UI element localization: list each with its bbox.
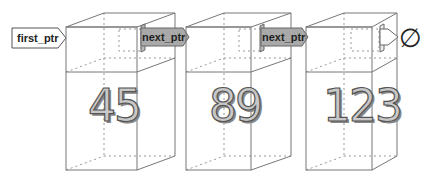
next-ptr-tag-2: next_ptr [260,24,308,52]
node-2-value: 89 [209,80,261,131]
next-ptr-label-2: next_ptr [262,31,306,43]
first-ptr-tag: first_ptr [12,28,66,48]
first-ptr-label: first_ptr [17,32,59,44]
null-ptr-tag [380,24,398,52]
linked-list-diagram: first_ptr 45 45 next_ptr [0,0,431,181]
node-1-value: 45 [88,80,140,131]
next-ptr-tag-1: next_ptr [141,24,189,52]
next-ptr-label-1: next_ptr [142,31,186,43]
null-symbol: ∅ [399,23,422,53]
node-3-value: 123 [323,80,401,131]
